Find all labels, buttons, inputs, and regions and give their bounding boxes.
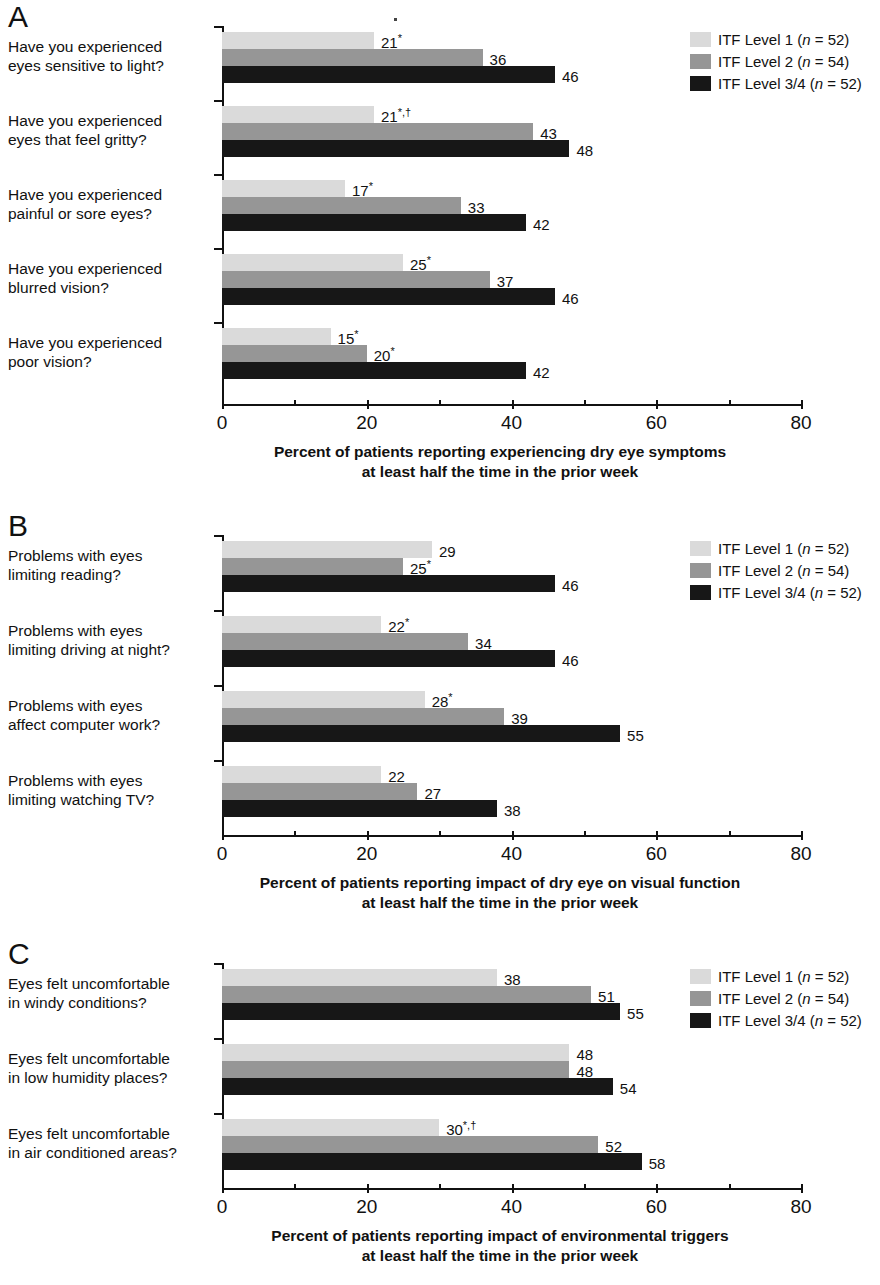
bar-a-g1-s1 <box>222 123 533 140</box>
x-axis-minor-tick <box>584 400 586 406</box>
y-axis-tick <box>214 100 222 102</box>
bar-value-label: 30*,† <box>446 1122 476 1137</box>
category-label-line: Have you experienced <box>8 111 214 130</box>
bar-value-label: 55 <box>627 728 644 743</box>
bar-value-label: 22 <box>388 769 405 784</box>
x-axis-major-tick <box>512 831 514 840</box>
bar-value-label: 42 <box>533 217 550 232</box>
category-label-line: Problems with eyes <box>8 621 214 640</box>
bar-b-g0-s2 <box>222 575 555 592</box>
bar-value-label: 38 <box>504 803 521 818</box>
y-axis-tick <box>214 535 222 537</box>
bar-value-label: 22* <box>388 619 409 634</box>
legend-label: ITF Level 3/4 (n = 52) <box>718 1011 862 1030</box>
bar-a-g2-s1 <box>222 197 461 214</box>
bar-c-g0-s2 <box>222 1003 620 1020</box>
x-axis-minor-tick <box>584 831 586 837</box>
legend-label: ITF Level 2 (n = 54) <box>718 52 849 71</box>
x-axis-minor-tick <box>729 400 731 406</box>
bar-value-label: 48 <box>576 1064 593 1079</box>
category-label-line: Have you experienced <box>8 333 214 352</box>
y-axis-tick <box>214 322 222 324</box>
x-axis-major-tick <box>801 831 803 840</box>
bar-value-label: 29 <box>439 544 456 559</box>
category-label-line: limiting reading? <box>8 565 214 584</box>
category-label-line: Problems with eyes <box>8 696 214 715</box>
category-label: Eyes felt uncomfortablein windy conditio… <box>8 974 214 1012</box>
bar-value-label: 52 <box>605 1139 622 1154</box>
category-label: Problems with eyeslimiting driving at ni… <box>8 621 214 659</box>
bar-c-g0-s1 <box>222 986 591 1003</box>
x-axis-caption: Percent of patients reporting impact of … <box>150 873 850 913</box>
legend-label: ITF Level 2 (n = 54) <box>718 989 849 1008</box>
bar-value-label: 42 <box>533 365 550 380</box>
scan-artifact-speck <box>394 18 397 21</box>
bar-value-label: 33 <box>468 200 485 215</box>
category-label-line: Have you experienced <box>8 259 214 278</box>
x-axis-caption-line: Percent of patients reporting impact of … <box>150 1226 850 1246</box>
x-axis-tick-label: 40 <box>501 843 522 865</box>
category-label-line: poor vision? <box>8 352 214 371</box>
legend-label: ITF Level 1 (n = 52) <box>718 967 849 986</box>
x-axis-major-tick <box>367 400 369 409</box>
bar-value-label: 43 <box>540 126 557 141</box>
legend-swatch-icon <box>690 969 711 984</box>
x-axis-caption-line: at least half the time in the prior week <box>150 1246 850 1266</box>
bar-value-label: 25* <box>410 257 431 272</box>
category-label: Problems with eyeslimiting reading? <box>8 546 214 584</box>
x-axis-major-tick <box>656 400 658 409</box>
x-axis-major-tick <box>222 400 224 409</box>
x-axis-minor-tick <box>294 1184 296 1190</box>
legend-swatch-icon <box>690 541 711 556</box>
panel-letter-C: C <box>8 939 30 969</box>
bar-value-label: 38 <box>504 972 521 987</box>
legend-swatch-icon <box>690 54 711 69</box>
legend-label: ITF Level 2 (n = 54) <box>718 561 849 580</box>
legend-swatch-icon <box>690 563 711 578</box>
category-label-line: Eyes felt uncomfortable <box>8 1049 214 1068</box>
bar-c-g1-s1 <box>222 1061 569 1078</box>
bar-a-g0-s2 <box>222 66 555 83</box>
x-axis-major-tick <box>656 831 658 840</box>
bar-c-g1-s2 <box>222 1078 613 1095</box>
bar-c-g2-s1 <box>222 1136 598 1153</box>
bar-c-g1-s0 <box>222 1044 569 1061</box>
bar-value-label: 55 <box>627 1006 644 1021</box>
y-axis-tick <box>214 1113 222 1115</box>
category-label-line: eyes that feel gritty? <box>8 130 214 149</box>
x-axis-caption: Percent of patients reporting experienci… <box>150 442 850 482</box>
category-label: Eyes felt uncomfortablein air conditione… <box>8 1124 214 1162</box>
category-label: Have you experiencedblurred vision? <box>8 259 214 297</box>
category-label-line: affect computer work? <box>8 715 214 734</box>
bar-a-g4-s2 <box>222 362 526 379</box>
bar-b-g1-s2 <box>222 650 555 667</box>
x-axis-minor-tick <box>584 1184 586 1190</box>
category-label-line: Have you experienced <box>8 185 214 204</box>
x-axis-tick-label: 0 <box>217 843 228 865</box>
x-axis-tick-label: 40 <box>501 1196 522 1218</box>
bar-a-g3-s1 <box>222 271 490 288</box>
x-axis-minor-tick <box>729 831 731 837</box>
bar-value-label: 51 <box>598 989 615 1004</box>
category-label-line: painful or sore eyes? <box>8 204 214 223</box>
bar-c-g2-s0 <box>222 1119 439 1136</box>
bar-value-label: 37 <box>497 274 514 289</box>
x-axis-caption: Percent of patients reporting impact of … <box>150 1226 850 1266</box>
bar-a-g2-s0 <box>222 180 345 197</box>
category-label: Problems with eyeslimiting watching TV? <box>8 771 214 809</box>
x-axis-tick-label: 20 <box>356 412 377 434</box>
x-axis-major-tick <box>222 831 224 840</box>
legend-label: ITF Level 3/4 (n = 52) <box>718 583 862 602</box>
x-axis-major-tick <box>367 1184 369 1193</box>
bar-b-g2-s1 <box>222 708 504 725</box>
bar-value-label: 54 <box>620 1081 637 1096</box>
x-axis-minor-tick <box>439 1184 441 1190</box>
category-label-line: Have you experienced <box>8 37 214 56</box>
x-axis-tick-label: 60 <box>646 1196 667 1218</box>
panel-letter-B: B <box>8 511 28 541</box>
bar-a-g3-s0 <box>222 254 403 271</box>
bar-value-label: 48 <box>576 1047 593 1062</box>
legend-swatch-icon <box>690 76 711 91</box>
x-axis-tick-label: 20 <box>356 1196 377 1218</box>
bar-value-label: 27 <box>424 786 441 801</box>
